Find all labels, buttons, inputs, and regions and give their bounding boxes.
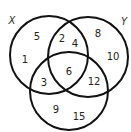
value-xy-1: 2 xyxy=(59,33,65,44)
set-label-x: X xyxy=(8,15,17,26)
value-yz: 12 xyxy=(88,76,101,87)
value-x-only-2: 1 xyxy=(22,54,28,65)
value-xyz: 6 xyxy=(66,66,72,77)
value-z-only-1: 9 xyxy=(53,104,59,115)
set-label-y: Y xyxy=(121,16,128,27)
circle-z xyxy=(30,52,108,130)
value-xz: 3 xyxy=(41,77,47,88)
value-z-only-2: 15 xyxy=(73,111,86,122)
value-xy-2: 4 xyxy=(72,38,78,49)
value-x-only-1: 5 xyxy=(34,31,40,42)
venn-diagram: X Y 5 1 2 4 8 10 3 6 12 9 15 xyxy=(0,0,131,132)
value-y-only-1: 8 xyxy=(95,28,101,39)
value-y-only-2: 10 xyxy=(107,51,120,62)
